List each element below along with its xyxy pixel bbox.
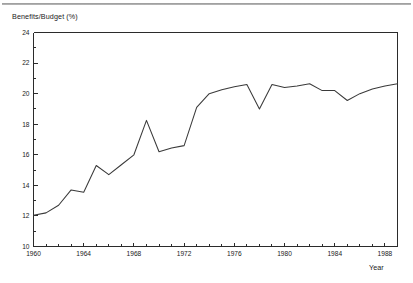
axis-tick-labels: 1012141618202224196019641968197219761980… [22, 29, 392, 257]
y-tick-label: 12 [22, 212, 30, 219]
x-tick-label: 1972 [177, 250, 192, 257]
plot-frame [34, 33, 398, 247]
x-tick-label: 1968 [127, 250, 142, 257]
axis-ticks [34, 33, 398, 247]
y-tick-label: 24 [22, 29, 30, 36]
x-tick-label: 1964 [76, 250, 91, 257]
x-tick-label: 1984 [327, 250, 342, 257]
x-tick-label: 1976 [227, 250, 242, 257]
y-tick-label: 20 [22, 90, 30, 97]
y-tick-label: 14 [22, 182, 30, 189]
axes [34, 33, 398, 247]
series-line-benefits-budget [34, 84, 398, 215]
data-series [34, 84, 398, 215]
y-tick-label: 22 [22, 59, 30, 66]
chart-figure: Benefits/Budget (%) Year 101214161820222… [0, 0, 413, 283]
x-tick-label: 1960 [26, 250, 41, 257]
y-tick-label: 18 [22, 121, 30, 128]
line-chart-plot: 1012141618202224196019641968197219761980… [0, 0, 413, 283]
x-tick-label: 1980 [277, 250, 292, 257]
x-tick-label: 1988 [378, 250, 393, 257]
y-tick-label: 16 [22, 151, 30, 158]
